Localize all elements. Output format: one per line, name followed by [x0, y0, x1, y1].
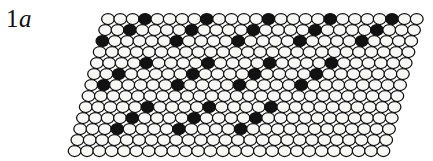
lattice-site-open — [372, 69, 385, 80]
lattice-site-open — [346, 124, 359, 135]
lattice-site-filled — [232, 36, 245, 47]
lattice-site-open — [280, 91, 293, 102]
lattice-site-open — [230, 91, 243, 102]
lattice-site-filled — [97, 80, 110, 91]
lattice-site-open — [350, 58, 363, 69]
lattice-site-filled — [126, 113, 139, 124]
lattice-site-open — [114, 113, 127, 124]
lattice-site-open — [192, 146, 205, 157]
lattice-site-open — [322, 69, 335, 80]
lattice-site-open — [308, 124, 321, 135]
lattice-site-open — [77, 113, 90, 124]
lattice-site-open — [130, 47, 143, 58]
lattice-site-open — [363, 102, 376, 113]
lattice-site-open — [376, 102, 389, 113]
lattice-site-open — [229, 47, 242, 58]
lattice-site-open — [267, 91, 280, 102]
lattice-site-open — [358, 124, 371, 135]
lattice-site-open — [228, 102, 241, 113]
lattice-site-open — [239, 58, 252, 69]
lattice-site-open — [212, 113, 225, 124]
lattice-site-open — [300, 58, 313, 69]
lattice-site-filled — [188, 113, 201, 124]
lattice-site-open — [198, 25, 211, 36]
lattice-site-open — [380, 135, 393, 146]
lattice-site-open — [196, 80, 209, 91]
lattice-site-filled — [324, 14, 337, 25]
lattice-site-open — [92, 102, 105, 113]
lattice-site-open — [287, 14, 300, 25]
lattice-site-open — [307, 80, 320, 91]
lattice-site-open — [341, 91, 354, 102]
lattice-site-open — [399, 58, 412, 69]
lattice-site-open — [332, 80, 345, 91]
lattice-site-open — [279, 47, 292, 58]
lattice-site-open — [384, 69, 397, 80]
lattice-site-open — [377, 146, 390, 157]
lattice-site-open — [86, 124, 99, 135]
lattice-site-open — [251, 58, 264, 69]
lattice-site-open — [252, 102, 265, 113]
lattice-site-open — [108, 36, 121, 47]
lattice-site-open — [299, 113, 312, 124]
lattice-site-open — [392, 36, 405, 47]
lattice-site-open — [273, 69, 286, 80]
lattice-site-open — [243, 91, 256, 102]
lattice-site-open — [318, 36, 331, 47]
lattice-site-open — [367, 135, 380, 146]
lattice-site-open — [348, 113, 361, 124]
lattice-site-open — [145, 36, 158, 47]
lattice-site-open — [110, 80, 123, 91]
lattice-site-filled — [187, 69, 200, 80]
lattice-site-open — [261, 69, 274, 80]
lattice-site-open — [274, 113, 287, 124]
lattice-site-open — [130, 146, 143, 157]
lattice-site-open — [136, 25, 149, 36]
lattice-site-open — [167, 47, 180, 58]
lattice-site-open — [247, 124, 260, 135]
lattice-site-open — [346, 25, 359, 36]
lattice-site-open — [93, 47, 106, 58]
lattice-site-open — [200, 113, 213, 124]
lattice-site-open — [250, 14, 263, 25]
lattice-site-open — [351, 102, 364, 113]
lattice-site-open — [315, 146, 328, 157]
lattice-site-filled — [265, 102, 278, 113]
lattice-site-open — [340, 146, 353, 157]
lattice-site-open — [74, 124, 87, 135]
lattice-site-open — [111, 25, 124, 36]
lattice-site-filled — [249, 113, 262, 124]
lattice-site-open — [143, 47, 156, 58]
lattice-site-open — [163, 113, 176, 124]
lattice-site-filled — [111, 124, 124, 135]
lattice-circle-group — [68, 14, 423, 157]
lattice-site-filled — [248, 69, 261, 80]
lattice-site-open — [152, 58, 165, 69]
lattice-site-open — [221, 80, 234, 91]
lattice-site-open — [270, 80, 283, 91]
lattice-site-open — [116, 102, 129, 113]
lattice-site-open — [285, 69, 298, 80]
lattice-site-open — [142, 146, 155, 157]
lattice-site-open — [298, 69, 311, 80]
figure-panel: 1a — [0, 0, 433, 161]
lattice-site-open — [296, 25, 309, 36]
lattice-site-open — [104, 102, 117, 113]
lattice-site-open — [226, 58, 239, 69]
lattice-site-open — [222, 25, 235, 36]
lattice-site-open — [192, 47, 205, 58]
lattice-site-open — [213, 14, 226, 25]
lattice-site-open — [177, 58, 190, 69]
lattice-site-open — [236, 69, 249, 80]
lattice-site-open — [343, 36, 356, 47]
lattice-site-open — [235, 25, 248, 36]
lattice-site-open — [349, 14, 362, 25]
lattice-site-open — [82, 91, 95, 102]
lattice-site-open — [266, 47, 279, 58]
lattice-site-open — [167, 146, 180, 157]
lattice-site-open — [169, 91, 182, 102]
lattice-site-open — [357, 80, 370, 91]
lattice-site-open — [170, 135, 183, 146]
lattice-site-open — [271, 124, 284, 135]
lattice-site-open — [151, 14, 164, 25]
